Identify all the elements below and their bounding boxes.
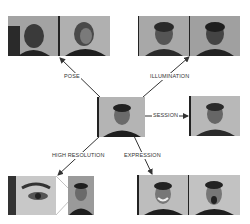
- illumination-label: ILLUMINATION: [149, 73, 190, 80]
- high-resolution-label: HIGH RESOLUTION: [51, 152, 106, 159]
- session-label: SESSION: [152, 112, 179, 119]
- pose-image-three-quarter: [60, 16, 110, 56]
- high-resolution-portrait: [68, 176, 94, 215]
- illumination-image-a: [139, 16, 189, 56]
- center-image: [99, 97, 145, 137]
- pose-image-profile: [8, 16, 58, 56]
- expression-image-smile: [139, 175, 188, 215]
- session-image: [191, 96, 240, 136]
- expression-image-scream: [189, 175, 240, 215]
- illumination-image-b: [190, 16, 240, 56]
- high-resolution-eye-closeup: [8, 176, 56, 215]
- pose-label: POSE: [63, 73, 81, 80]
- expression-label: EXPRESSION: [123, 152, 162, 159]
